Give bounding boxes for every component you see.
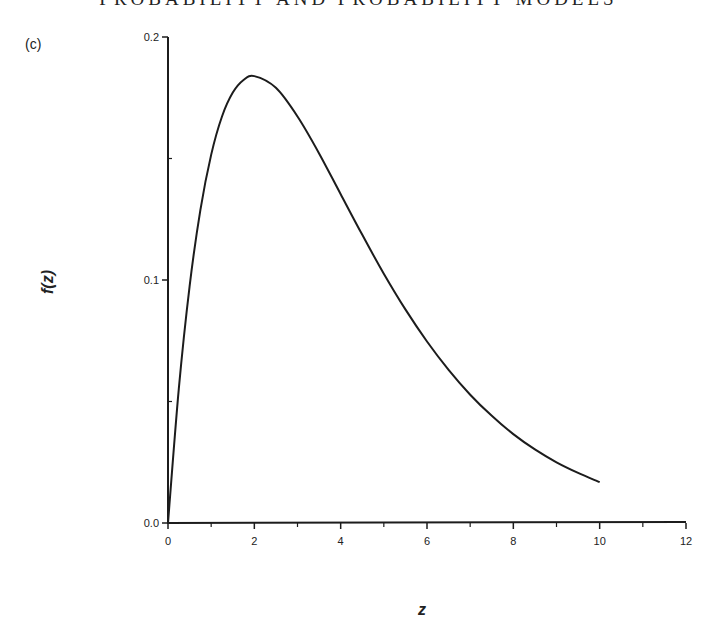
axes [168,37,686,524]
x-axis-title: z [417,601,426,618]
y-axis-title: f(z) [39,270,56,294]
y-tick-label: 0.1 [144,274,159,286]
density-chart: 0246810120.00.10.2 z f(z) [0,0,717,637]
y-tick-label: 0.0 [144,517,159,529]
x-tick-label: 12 [680,535,692,547]
x-tick-label: 6 [424,535,430,547]
x-tick-label: 4 [338,535,344,547]
x-axis-line [168,522,686,523]
density-curve [168,76,600,523]
x-tick-label: 8 [510,535,516,547]
x-tick-label: 10 [594,535,606,547]
x-tick-label: 2 [251,535,257,547]
y-tick-label: 0.2 [144,31,159,43]
x-tick-label: 0 [165,535,171,547]
